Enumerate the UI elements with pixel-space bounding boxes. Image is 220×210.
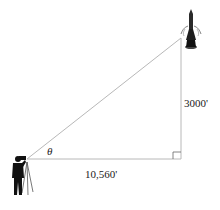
height-label: 3000' xyxy=(184,98,208,109)
observer-icon xyxy=(12,156,33,195)
hypotenuse-line xyxy=(27,38,181,159)
rocket-icon xyxy=(181,9,201,49)
base-label: 10,560' xyxy=(85,169,117,180)
angle-theta-label: θ xyxy=(47,146,52,157)
right-angle-marker xyxy=(173,152,181,159)
